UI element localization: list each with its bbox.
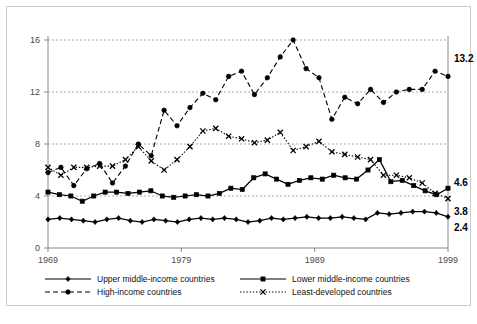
marker-diamond <box>66 276 70 281</box>
marker-circle <box>278 55 283 60</box>
marker-circle <box>304 66 309 71</box>
marker-circle <box>342 95 347 100</box>
chart-figure: 0481216 1969197919891999 13.24.63.82.4 U… <box>0 0 477 324</box>
marker-x <box>123 157 128 162</box>
marker-square <box>217 191 221 195</box>
marker-x <box>213 126 218 131</box>
marker-square <box>354 177 358 181</box>
end-value-label: 4.6 <box>454 177 468 188</box>
marker-diamond <box>69 217 73 222</box>
marker-square <box>423 189 427 193</box>
marker-x <box>316 139 321 144</box>
marker-circle <box>123 164 128 169</box>
series-line <box>48 128 448 198</box>
series-1 <box>46 209 450 225</box>
marker-circle <box>175 124 180 129</box>
marker-square <box>69 194 73 198</box>
marker-diamond <box>446 214 450 219</box>
marker-diamond <box>387 212 391 217</box>
marker-square <box>229 186 233 190</box>
marker-diamond <box>81 218 85 223</box>
marker-diamond <box>175 219 179 224</box>
marker-square <box>80 199 84 203</box>
marker-circle <box>355 101 360 106</box>
marker-diamond <box>187 217 191 222</box>
marker-circle <box>201 91 206 96</box>
marker-circle <box>72 183 77 188</box>
marker-circle <box>110 181 115 186</box>
marker-circle <box>149 153 154 158</box>
marker-square <box>160 194 164 198</box>
marker-circle <box>291 38 296 43</box>
marker-circle <box>188 105 193 110</box>
marker-square <box>194 193 198 197</box>
marker-square <box>389 180 393 184</box>
marker-circle <box>162 108 167 113</box>
marker-diamond <box>116 216 120 221</box>
end-value-labels: 13.24.63.82.4 <box>454 53 474 232</box>
marker-square <box>297 178 301 182</box>
axes <box>48 36 448 248</box>
x-tick-label: 1979 <box>171 255 191 265</box>
marker-square <box>400 178 404 182</box>
marker-diamond <box>375 210 379 215</box>
marker-x <box>58 173 63 178</box>
legend-label: Lower middle-income countries <box>292 274 410 284</box>
chart-legend: Upper middle-income countriesLower middl… <box>45 274 410 297</box>
marker-square <box>343 176 347 180</box>
legend-label: High-income countries <box>97 287 182 297</box>
y-tick-label: 16 <box>30 35 40 45</box>
marker-diamond <box>234 217 238 222</box>
data-series <box>45 38 450 225</box>
marker-square <box>274 177 278 181</box>
legend-label: Upper middle-income countries <box>97 274 215 284</box>
marker-x <box>278 130 283 135</box>
legend-item-3[interactable]: High-income countries <box>45 287 182 297</box>
marker-diamond <box>258 218 262 223</box>
marker-square <box>114 190 118 194</box>
marker-circle <box>46 170 51 175</box>
marker-diamond <box>211 217 215 222</box>
legend-label: Least-developed countries <box>292 287 392 297</box>
marker-circle <box>420 87 425 92</box>
marker-square <box>240 187 244 191</box>
marker-x <box>260 289 265 294</box>
legend-item-2[interactable]: Lower middle-income countries <box>240 274 410 284</box>
marker-diamond <box>128 218 132 223</box>
marker-diamond <box>46 217 50 222</box>
marker-circle <box>66 290 71 295</box>
marker-square <box>377 158 381 162</box>
series-2 <box>46 158 450 204</box>
marker-diamond <box>316 216 320 221</box>
marker-diamond <box>340 214 344 219</box>
marker-x <box>303 144 308 149</box>
marker-circle <box>252 92 257 97</box>
marker-square <box>332 173 336 177</box>
marker-circle <box>317 75 322 80</box>
marker-square <box>446 186 450 190</box>
marker-x <box>200 128 205 133</box>
marker-square <box>320 177 324 181</box>
marker-square <box>126 191 130 195</box>
end-value-label: 3.8 <box>454 206 468 217</box>
marker-diamond <box>293 216 297 221</box>
marker-diamond <box>399 210 403 215</box>
marker-diamond <box>281 217 285 222</box>
y-tick-label: 8 <box>35 139 40 149</box>
marker-diamond <box>222 216 226 221</box>
marker-diamond <box>328 216 332 221</box>
marker-circle <box>381 100 386 105</box>
legend-item-1[interactable]: Upper middle-income countries <box>45 274 215 284</box>
marker-square <box>206 194 210 198</box>
legend-item-4[interactable]: Least-developed countries <box>240 287 392 297</box>
marker-square <box>57 193 61 197</box>
marker-square <box>252 176 256 180</box>
marker-circle <box>394 90 399 95</box>
marker-square <box>309 176 313 180</box>
marker-circle <box>407 87 412 92</box>
marker-x <box>252 140 257 145</box>
marker-diamond <box>305 214 309 219</box>
marker-circle <box>226 74 231 79</box>
line-chart: 0481216 1969197919891999 13.24.63.82.4 U… <box>0 0 477 324</box>
marker-x <box>394 173 399 178</box>
